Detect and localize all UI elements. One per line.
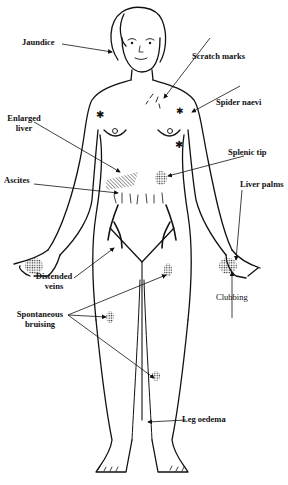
label-scratch-marks: Scratch marks [192,52,245,62]
label-leg-oedema: Leg oedema [182,415,226,425]
label-distended-veins-line2: veins [30,282,78,292]
vein-right [162,205,176,248]
label-distended-veins: Distended veins [30,272,78,291]
label-spontaneous-bruising-line2: bruising [10,320,70,330]
label-spider-naevi: Spider naevi [216,98,261,108]
bruise-thigh [106,311,114,323]
bruise-knee [152,371,160,381]
svg-text:✱: ✱ [96,109,104,120]
svg-text:✱: ✱ [175,139,183,150]
hair [111,7,166,62]
label-splenic-tip: Splenic tip [228,148,267,158]
label-liver-palms: Liver palms [240,180,284,190]
torso-left [48,80,131,250]
label-jaundice: Jaundice [22,38,55,48]
svg-text:✱: ✱ [176,106,184,116]
label-ascites: Ascites [4,176,30,186]
body-figure: ✱ ✱ ✱ [0,0,288,485]
label-enlarged-liver: Enlarged liver [2,114,46,133]
label-enlarged-liver-line2: liver [2,124,46,134]
face [122,38,160,72]
enlarged-liver-shading [106,172,138,190]
vein-left [108,205,122,248]
label-spontaneous-bruising: Spontaneous bruising [10,310,70,329]
splenic-tip-shading [155,171,167,185]
label-clubbing: Clubbing [216,293,248,303]
liver-palm-right [219,258,237,274]
